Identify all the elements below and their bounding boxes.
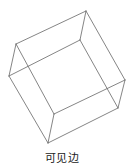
- cube-wireframe-diagram: [0, 0, 132, 150]
- cube-edge-AB: [16, 11, 86, 44]
- cube-edges: [9, 11, 125, 143]
- cube-edge-CH: [9, 76, 48, 143]
- cube-edge-AD: [80, 11, 86, 40]
- cube-edge-EG: [54, 80, 125, 114]
- cube-edge-EF: [118, 80, 125, 108]
- cube-edge-DF: [80, 40, 118, 108]
- cube-edge-CD: [9, 40, 80, 76]
- cube-edge-BG: [16, 44, 54, 114]
- cube-edge-GH: [48, 114, 54, 143]
- cube-edge-AE: [86, 11, 125, 80]
- figure-caption: 可见边: [0, 152, 124, 165]
- cube-edge-FH: [48, 108, 118, 143]
- cube-edge-BC: [9, 44, 16, 76]
